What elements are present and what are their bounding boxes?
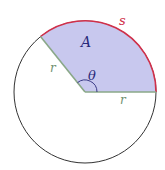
area-label: A — [79, 34, 91, 50]
sector-diagram: A s r r θ — [0, 0, 165, 170]
sector-area — [41, 21, 157, 92]
angle-label: θ — [88, 68, 96, 83]
radius-left-label: r — [50, 61, 57, 75]
radius-right-label: r — [120, 93, 127, 107]
arc-label: s — [119, 13, 126, 28]
